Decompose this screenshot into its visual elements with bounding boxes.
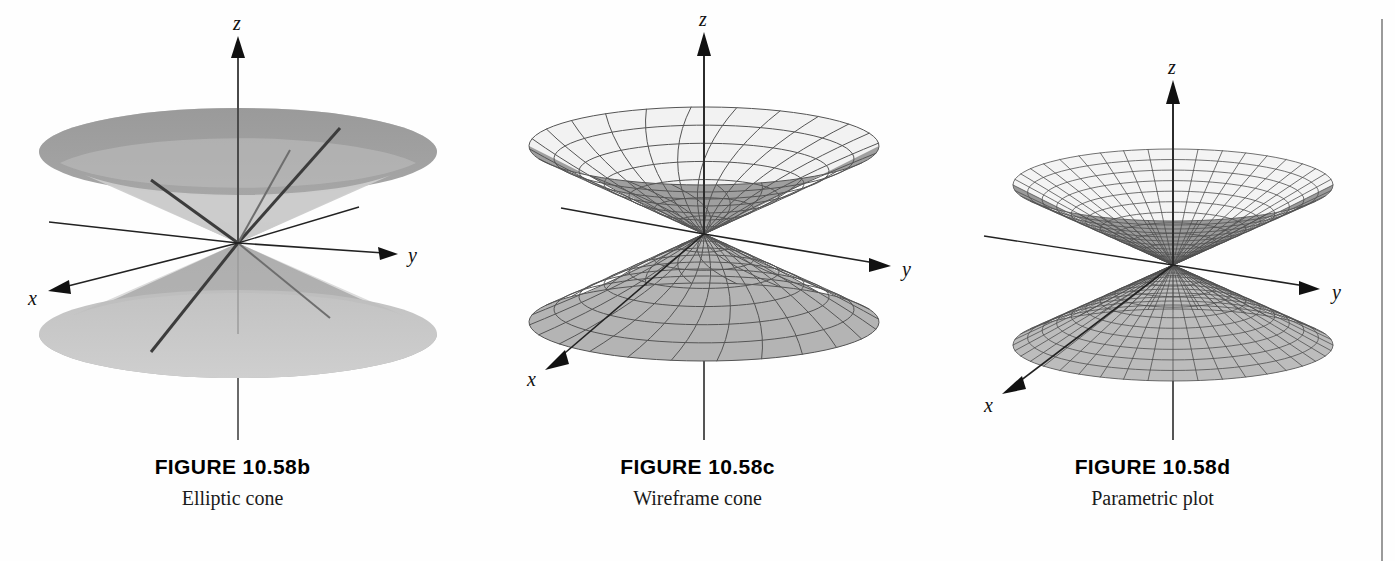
x-axis-label: x xyxy=(27,287,37,309)
y-axis-arrowhead xyxy=(378,247,398,260)
y-axis-label: y xyxy=(1330,281,1341,304)
z-axis-label: z xyxy=(232,12,241,34)
page-right-rule xyxy=(1381,19,1383,561)
y-axis-label: y xyxy=(406,244,417,267)
x-axis-label: x xyxy=(526,368,536,390)
x-axis-label: x xyxy=(983,394,993,416)
x-axis-arrowhead xyxy=(545,350,569,370)
z-axis-arrowhead xyxy=(231,36,245,58)
figure-b-subtitle: Elliptic cone xyxy=(0,487,465,510)
lower-nappe xyxy=(39,243,437,378)
figure-c-title: FIGURE 10.58c xyxy=(465,455,930,479)
figure-panel-b: z y x FIGURE 10.58b Elliptic cone xyxy=(0,0,465,561)
z-axis-label: z xyxy=(698,8,707,30)
wireframe-cone-figure: z y x xyxy=(465,0,930,450)
y-axis-arrowhead xyxy=(869,258,891,272)
parametric-cone-figure: z y x xyxy=(920,0,1385,450)
figure-panel-d: z y x FIGURE 10.58d Parametric plot xyxy=(920,0,1385,561)
z-axis-arrowhead xyxy=(1166,80,1180,104)
figure-d-subtitle: Parametric plot xyxy=(920,487,1385,510)
z-axis-arrowhead xyxy=(697,32,711,56)
elliptic-cone-figure: z y x xyxy=(0,0,465,450)
figure-page: z y x FIGURE 10.58b Elliptic cone z xyxy=(0,0,1395,561)
y-axis-line xyxy=(238,243,384,253)
figure-d-title: FIGURE 10.58d xyxy=(920,455,1385,479)
y-axis-label: y xyxy=(900,258,911,281)
x-axis-arrowhead xyxy=(1002,376,1026,394)
y-axis-arrowhead xyxy=(1299,281,1320,295)
figure-panel-c: z y x FIGURE 10.58c Wireframe cone xyxy=(465,0,930,561)
figure-b-title: FIGURE 10.58b xyxy=(0,455,465,479)
x-axis-arrowhead xyxy=(48,280,71,294)
figure-c-subtitle: Wireframe cone xyxy=(465,487,930,510)
z-axis-label: z xyxy=(1167,56,1176,78)
